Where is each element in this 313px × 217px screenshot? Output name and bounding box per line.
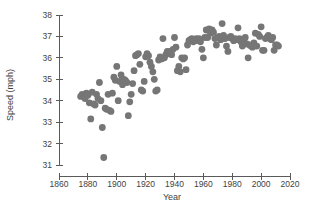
data-point <box>129 80 136 87</box>
data-point <box>181 54 188 61</box>
data-point <box>131 67 138 74</box>
y-tick-label: 37 <box>43 31 53 41</box>
data-point <box>126 98 133 105</box>
data-point <box>115 97 122 104</box>
data-point <box>123 79 130 86</box>
data-point <box>210 29 217 36</box>
x-axis: 186018801900192019401960198020002020 <box>50 173 300 190</box>
data-point <box>113 63 120 70</box>
data-point <box>173 44 180 51</box>
data-point <box>261 47 268 54</box>
data-point <box>269 34 276 41</box>
data-point <box>245 54 252 61</box>
x-tick-label: 1960 <box>194 179 213 189</box>
data-point <box>149 68 156 75</box>
data-point <box>151 76 158 83</box>
data-point <box>136 61 143 68</box>
data-point <box>99 124 106 131</box>
data-point <box>125 112 132 119</box>
data-point <box>171 34 178 41</box>
data-point <box>141 78 148 85</box>
x-tick-label: 1940 <box>165 179 184 189</box>
data-point <box>96 79 103 86</box>
data-point <box>108 108 115 115</box>
x-tick-label: 1920 <box>136 179 155 189</box>
x-tick-label: 2000 <box>252 179 271 189</box>
x-tick-label: 1860 <box>50 179 69 189</box>
scatter-plot-figure: 3132333435363738 18601880190019201940196… <box>0 0 313 217</box>
x-tick-label: 2020 <box>281 179 300 189</box>
data-point <box>219 20 226 27</box>
data-point <box>160 35 167 42</box>
y-tick-label: 35 <box>43 74 53 84</box>
y-tick-label: 33 <box>43 117 53 127</box>
data-point <box>183 66 190 73</box>
plot-canvas: 3132333435363738 18601880190019201940196… <box>0 0 313 217</box>
data-point <box>256 33 263 40</box>
data-point <box>199 46 206 53</box>
y-tick-label: 32 <box>43 139 53 149</box>
data-points-layer <box>77 20 282 161</box>
data-point <box>135 50 142 57</box>
x-tick-label: 1880 <box>78 179 97 189</box>
data-point <box>100 154 107 161</box>
y-tick-label: 38 <box>43 10 53 20</box>
y-axis: 3132333435363738 <box>43 10 63 170</box>
data-point <box>253 43 260 50</box>
data-point <box>235 24 242 31</box>
y-tick-label: 31 <box>43 160 53 170</box>
y-tick-label: 34 <box>43 96 53 106</box>
data-point <box>139 88 146 95</box>
data-point <box>200 54 207 61</box>
data-point <box>258 23 265 30</box>
data-point <box>92 102 99 109</box>
data-point <box>275 43 282 50</box>
data-point <box>242 34 249 41</box>
x-axis-title: Year <box>163 192 181 202</box>
data-point <box>154 87 161 94</box>
data-point <box>128 91 135 98</box>
data-point <box>109 90 116 97</box>
x-tick-label: 1980 <box>223 179 242 189</box>
data-point <box>213 42 220 49</box>
data-point <box>87 116 94 123</box>
y-axis-title: Speed (mph) <box>5 69 15 121</box>
y-tick-label: 36 <box>43 53 53 63</box>
data-point <box>97 97 104 104</box>
x-tick-label: 1900 <box>107 179 126 189</box>
data-point <box>145 52 152 59</box>
data-point <box>225 48 232 55</box>
